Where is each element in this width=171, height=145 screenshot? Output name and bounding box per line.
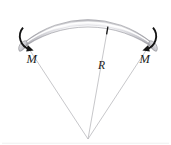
radial-line-radius bbox=[88, 29, 108, 140]
curved-beam-figure: M M R bbox=[0, 0, 171, 145]
figure-canvas: M M R bbox=[0, 0, 171, 145]
radius-label: R bbox=[97, 59, 105, 71]
moment-label-left: M bbox=[26, 52, 38, 66]
radial-lines-group bbox=[26, 29, 149, 140]
beam-outer-edge bbox=[19, 27, 157, 51]
moment-label-right: M bbox=[139, 52, 151, 66]
